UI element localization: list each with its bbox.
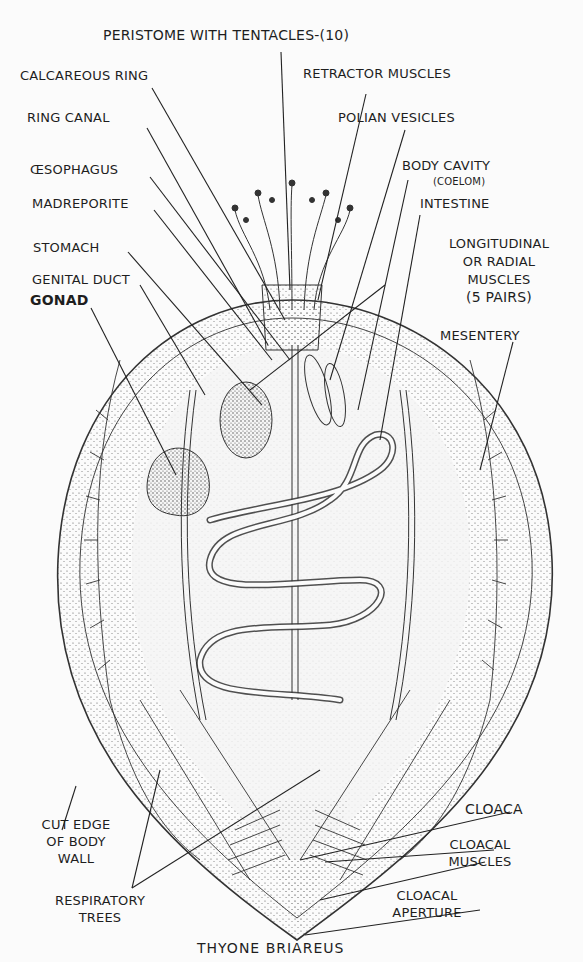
label-mesentery: MESENTERY [440, 328, 520, 343]
label-madreporite: MADREPORITE [32, 196, 129, 211]
label-cloacal-aperture-line1: CLOACAL [352, 888, 502, 903]
label-retractor-muscles: RETRACTOR MUSCLES [303, 66, 451, 81]
label-longitudinal-line2: OR RADIAL [424, 254, 574, 269]
label-respiratory-trees-line1: RESPIRATORY [35, 893, 165, 908]
label-longitudinal-line1: LONGITUDINAL [424, 236, 574, 251]
label-respiratory-trees-line2: TREES [35, 910, 165, 925]
label-body-cavity: BODY CAVITY [402, 158, 490, 173]
label-oesophagus: ŒSOPHAGUS [30, 162, 118, 177]
label-cloacal-muscles-line1: CLOACAL [405, 837, 555, 852]
label-intestine: INTESTINE [420, 196, 489, 211]
label-cloacal-aperture-line2: APERTURE [352, 905, 502, 920]
label-longitudinal-line3: MUSCLES [424, 272, 574, 287]
label-peristome: PERISTOME WITH TENTACLES-(10) [103, 28, 349, 43]
label-ring-canal: RING CANAL [27, 110, 110, 125]
label-calcareous-ring: CALCAREOUS RING [20, 68, 148, 83]
label-cut-edge-line3: WALL [26, 851, 126, 866]
label-longitudinal-line4: (5 PAIRS) [424, 290, 574, 305]
label-cloaca: CLOACA [465, 802, 523, 817]
label-gonad: GONAD [30, 293, 89, 308]
label-coelom: (COELOM) [433, 174, 485, 189]
label-genital-duct: GENITAL DUCT [32, 272, 130, 287]
label-cut-edge-line1: CUT EDGE [26, 817, 126, 832]
label-cloacal-muscles-line2: MUSCLES [405, 854, 555, 869]
diagram-title: THYONE BRIAREUS [197, 941, 344, 956]
label-cut-edge-line2: OF BODY [26, 834, 126, 849]
label-stomach: STOMACH [33, 240, 100, 255]
label-polian-vesicles: POLIAN VESICLES [338, 110, 455, 125]
